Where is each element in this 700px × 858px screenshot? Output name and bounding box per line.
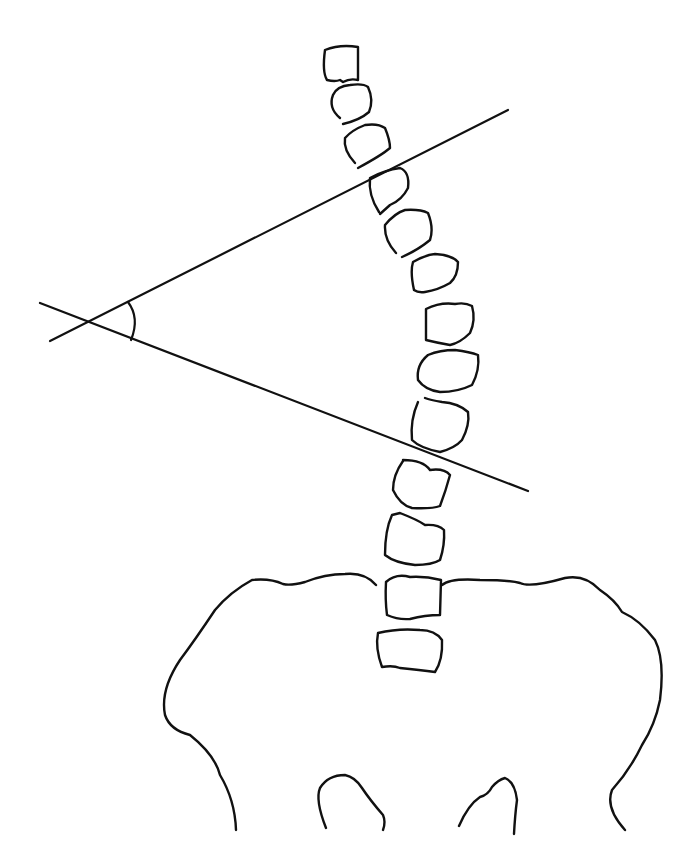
cobb-angle-diagram — [0, 0, 700, 858]
vertebral-column — [324, 46, 479, 672]
left-obturator — [318, 775, 384, 830]
vertebra-10 — [393, 460, 450, 508]
vertebra-8 — [418, 350, 479, 392]
vertebra-12 — [386, 576, 441, 619]
vertebra-5 — [385, 210, 432, 257]
lower-endplate-line — [40, 303, 528, 491]
vertebra-6 — [412, 254, 458, 292]
angle-arc — [128, 302, 135, 340]
vertebra-3 — [345, 124, 390, 168]
vertebra-7 — [426, 303, 474, 345]
vertebra-13 — [377, 629, 442, 672]
vertebra-1 — [324, 46, 358, 82]
right-iliac-crest — [442, 577, 662, 830]
upper-endplate-line — [50, 110, 508, 341]
vertebra-2 — [332, 84, 372, 124]
vertebra-11 — [385, 513, 444, 565]
left-iliac-crest — [164, 574, 376, 830]
pelvis — [164, 574, 662, 834]
vertebra-9 — [412, 398, 469, 452]
vertebra-4 — [370, 168, 409, 214]
right-obturator — [459, 778, 517, 834]
